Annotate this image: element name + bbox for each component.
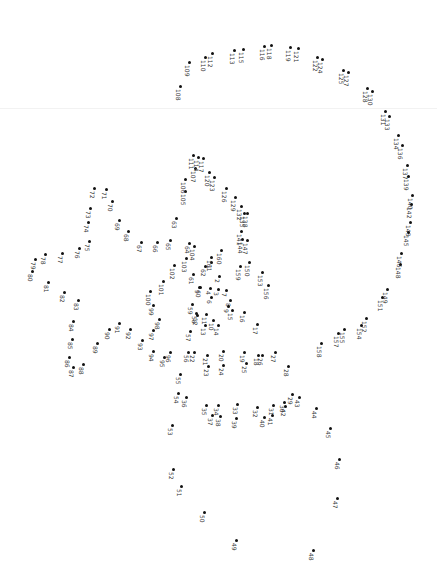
dot-number-label: 123 [209, 180, 215, 191]
puzzle-dot [263, 416, 266, 419]
dot-number-label: 161 [206, 260, 212, 271]
puzzle-dot [287, 365, 290, 368]
dot-number-label: 113 [229, 53, 235, 64]
puzzle-dot [156, 241, 159, 244]
puzzle-dot [179, 373, 182, 376]
dot-number-label: 98 [154, 322, 160, 330]
dot-number-label: 97 [148, 333, 154, 341]
puzzle-dot [337, 332, 340, 335]
puzzle-dot [185, 257, 188, 260]
dot-number-label: 74 [83, 225, 89, 233]
dot-number-label: 35 [201, 408, 207, 416]
puzzle-dot [225, 289, 228, 292]
puzzle-dot [386, 288, 389, 291]
dot-number-label: 102 [169, 268, 175, 279]
puzzle-dot [283, 401, 286, 404]
dot-number-label: 84 [68, 324, 74, 332]
puzzle-dot [187, 351, 190, 354]
puzzle-dot [93, 187, 96, 190]
dot-number-label: 40 [259, 420, 265, 428]
puzzle-dot [343, 328, 346, 331]
puzzle-dot [407, 175, 410, 178]
puzzle-dot [291, 393, 294, 396]
puzzle-dot [236, 403, 239, 406]
dot-number-label: 96 [165, 355, 171, 363]
puzzle-dot [381, 296, 384, 299]
dot-number-label: 80 [27, 274, 33, 282]
dot-number-label: 2 [214, 279, 220, 283]
puzzle-dot [316, 56, 319, 59]
dot-number-label: 28 [283, 369, 289, 377]
puzzle-dot [89, 207, 92, 210]
dot-number-label: 103 [181, 261, 187, 272]
dot-number-label: 109 [184, 65, 190, 76]
puzzle-dot [407, 231, 410, 234]
dot-number-label: 19 [239, 355, 245, 363]
puzzle-dot [217, 404, 220, 407]
dot-number-label: 44 [311, 411, 317, 419]
dot-number-label: 101 [158, 284, 164, 295]
puzzle-dot [231, 309, 234, 312]
puzzle-dot [189, 330, 192, 333]
puzzle-dot [202, 157, 205, 160]
puzzle-dot [199, 286, 202, 289]
dot-to-dot-puzzle: 1234567891011121314151617181920212223242… [0, 0, 437, 569]
dot-number-label: 37 [207, 418, 213, 426]
dot-number-label: 136 [397, 148, 403, 159]
puzzle-dot [248, 261, 251, 264]
dot-number-label: 83 [73, 303, 79, 311]
puzzle-dot [172, 468, 175, 471]
dot-number-label: 115 [238, 52, 244, 63]
puzzle-dot [401, 144, 404, 147]
dot-number-label: 46 [334, 462, 340, 470]
dot-number-label: 154 [356, 328, 362, 339]
puzzle-dot [229, 299, 232, 302]
puzzle-dot [210, 296, 213, 299]
puzzle-dot [261, 354, 264, 357]
puzzle-dot [129, 328, 132, 331]
puzzle-dot [243, 311, 246, 314]
puzzle-dot [173, 264, 176, 267]
puzzle-dot [235, 539, 238, 542]
dot-number-label: 15 [227, 313, 233, 321]
dot-number-label: 4 [205, 291, 211, 295]
dot-number-label: 147 [242, 243, 248, 254]
puzzle-dot [72, 366, 75, 369]
dot-number-label: 27 [270, 355, 276, 363]
puzzle-dot [82, 363, 85, 366]
puzzle-dot [371, 90, 374, 93]
puzzle-dot [206, 354, 209, 357]
puzzle-dot [256, 406, 259, 409]
puzzle-dot [203, 511, 206, 514]
puzzle-dot [342, 69, 345, 72]
dot-number-label: 32 [252, 410, 258, 418]
dot-number-label: 6 [206, 300, 212, 304]
dot-number-label: 36 [181, 400, 187, 408]
dot-number-label: 53 [167, 428, 173, 436]
dot-number-label: 16 [239, 315, 245, 323]
puzzle-dot [410, 203, 413, 206]
dot-number-label: 142 [406, 207, 412, 218]
dot-number-label: 47 [332, 501, 338, 509]
puzzle-dot [162, 280, 165, 283]
dot-number-label: 137 [402, 168, 408, 179]
puzzle-dot [169, 351, 172, 354]
puzzle-dot [274, 351, 277, 354]
puzzle-dot [204, 324, 207, 327]
puzzle-dot [399, 263, 402, 266]
dot-number-label: 146 [396, 256, 402, 267]
puzzle-dot [284, 405, 287, 408]
puzzle-dot [329, 427, 332, 430]
puzzle-dot [233, 49, 236, 52]
puzzle-dot [205, 313, 208, 316]
puzzle-dot [188, 242, 191, 245]
dot-number-label: 110 [200, 60, 206, 71]
dot-number-label: 92 [125, 332, 131, 340]
dot-number-label: 88 [78, 367, 84, 375]
puzzle-dot [411, 194, 414, 197]
dot-number-label: 34 [213, 408, 219, 416]
puzzle-dot [222, 364, 225, 367]
puzzle-dot [384, 110, 387, 113]
dot-number-label: 66 [152, 245, 158, 253]
dot-number-label: 116 [259, 49, 265, 60]
